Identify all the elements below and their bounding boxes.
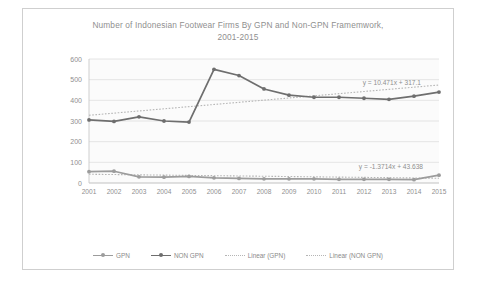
x-axis-tick-label: 2008 [257, 188, 272, 195]
x-axis-tick-label: 2012 [357, 188, 372, 195]
y-axis-tick-label: 600 [70, 56, 82, 63]
x-axis-tick-label: 2004 [157, 188, 172, 195]
data-point [312, 95, 316, 99]
x-axis-tick-label: 2014 [407, 188, 422, 195]
data-point [362, 96, 366, 100]
legend-label: NON GPN [174, 252, 204, 259]
x-axis-tick-label: 2007 [232, 188, 247, 195]
data-point [262, 87, 266, 91]
data-point [237, 177, 241, 181]
legend-item-linear-non-gpn-[interactable]: Linear (NON GPN) [306, 252, 383, 259]
legend-label: Linear (GPN) [248, 252, 286, 259]
legend-label: GPN [116, 252, 130, 259]
x-axis-tick-label: 2010 [307, 188, 322, 195]
y-axis-tick-label: 100 [70, 159, 82, 166]
data-point [287, 93, 291, 97]
data-point [337, 95, 341, 99]
data-point [137, 175, 141, 179]
data-point [162, 175, 166, 179]
data-point [237, 74, 241, 78]
data-point [87, 118, 91, 122]
y-axis-tick-label: 200 [70, 138, 82, 145]
data-point [387, 97, 391, 101]
legend-swatch-icon [151, 252, 171, 259]
data-point [87, 170, 91, 174]
data-point [137, 115, 141, 119]
y-axis-tick-label: 400 [70, 97, 82, 104]
legend-label: Linear (NON GPN) [329, 252, 383, 259]
x-axis-tick-label: 2003 [132, 188, 147, 195]
trendline-equation-gpn: y = -1.3714x + 43.638 [359, 163, 423, 171]
data-point [312, 177, 316, 181]
x-axis-tick-label: 2005 [182, 188, 197, 195]
data-point [112, 120, 116, 124]
data-point [162, 119, 166, 123]
trendline-equation-non-gpn: y = 10.471x + 317.1 [363, 79, 422, 87]
data-point [337, 177, 341, 181]
data-point [187, 120, 191, 124]
legend-item-non-gpn[interactable]: NON GPN [151, 252, 204, 259]
data-point [262, 177, 266, 181]
data-point [437, 173, 441, 177]
legend-item-gpn[interactable]: GPN [93, 252, 130, 259]
data-point [212, 176, 216, 180]
data-point [187, 174, 191, 178]
legend-item-linear-gpn-[interactable]: Linear (GPN) [225, 252, 286, 259]
chart-container: Number of Indonesian Footwear Firms By G… [22, 8, 454, 270]
data-point [412, 178, 416, 182]
x-axis-tick-label: 2013 [382, 188, 397, 195]
legend-swatch-icon [306, 252, 326, 259]
x-axis-tick-label: 2009 [282, 188, 297, 195]
chart-legend: GPNNON GPNLinear (GPN)Linear (NON GPN) [23, 252, 453, 259]
data-point [112, 169, 116, 173]
y-axis-tick-label: 500 [70, 76, 82, 83]
data-point [387, 177, 391, 181]
data-point [437, 90, 441, 94]
x-axis-tick-label: 2001 [82, 188, 97, 195]
data-point [287, 177, 291, 181]
x-axis-tick-label: 2015 [432, 188, 447, 195]
chart-plot-svg: 0100200300400500600200120022003200420052… [23, 9, 455, 271]
data-point [412, 94, 416, 98]
legend-swatch-icon [225, 252, 245, 259]
data-point [212, 67, 216, 71]
x-axis-tick-label: 2011 [332, 188, 347, 195]
x-axis-tick-label: 2006 [207, 188, 222, 195]
legend-swatch-icon [93, 252, 113, 259]
data-point [362, 177, 366, 181]
y-axis-tick-label: 300 [70, 118, 82, 125]
y-axis-tick-label: 0 [78, 180, 82, 187]
plot-area: 0100200300400500600200120022003200420052… [23, 9, 455, 271]
x-axis-tick-label: 2002 [107, 188, 122, 195]
